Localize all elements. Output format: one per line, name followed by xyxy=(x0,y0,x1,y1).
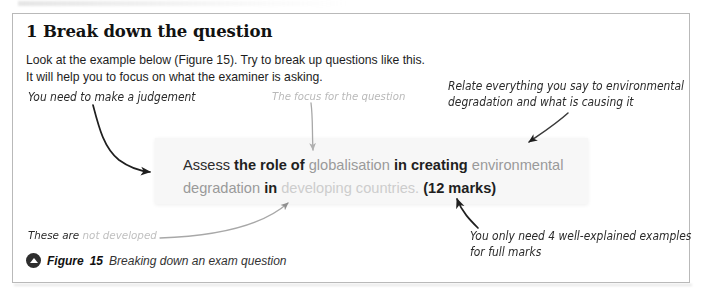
annotation-examples-line-1: You only need 4 well-explained examples xyxy=(470,228,691,244)
annotation-relate: Relate everything you say to environment… xyxy=(448,78,684,110)
annotation-these-are: These are xyxy=(28,229,79,242)
page-bleed-artifact xyxy=(18,1,348,6)
question-segment-assess: Assess xyxy=(183,157,230,173)
figure-number: 15 xyxy=(90,254,103,268)
annotation-examples: You only need 4 well-explained examples … xyxy=(470,228,691,260)
figure-page: 1 Break down the question Look at the ex… xyxy=(0,0,702,298)
question-segment-in-creating: in creating xyxy=(394,157,468,173)
annotation-not-developed: These are not developed xyxy=(28,228,157,244)
figure-caption-text: Breaking down an exam question xyxy=(109,254,286,268)
question-segment-globalisation: globalisation xyxy=(309,157,390,173)
annotation-relate-line-2: degradation and what is causing it xyxy=(448,94,684,110)
question-segment-marks: (12 marks) xyxy=(423,180,496,196)
annotation-judgement: You need to make a judgement xyxy=(28,89,196,105)
question-segment-in: in xyxy=(264,180,277,196)
annotation-examples-line-2: for full marks xyxy=(470,244,691,260)
card-shadow xyxy=(14,284,692,286)
page-title: 1 Break down the question xyxy=(26,22,272,41)
intro-line-2: It will help you to focus on what the ex… xyxy=(26,69,425,86)
figure-caption: Figure 15 Breaking down an exam question xyxy=(26,253,286,268)
question-segment-developing-countries: developing countries. xyxy=(281,180,419,196)
intro-paragraph: Look at the example below (Figure 15). T… xyxy=(26,52,425,85)
annotation-focus: The focus for the question xyxy=(272,89,405,105)
triangle-up-circle-icon xyxy=(26,253,41,268)
figure-label: Figure xyxy=(47,254,84,268)
question-segment-the-role-of: the role of xyxy=(234,157,305,173)
annotation-relate-line-1: Relate everything you say to environment… xyxy=(448,78,684,94)
intro-line-1: Look at the example below (Figure 15). T… xyxy=(26,52,425,69)
annotation-not-developed-faded: not developed xyxy=(83,229,157,242)
exam-question-text: Assess the role of globalisation in crea… xyxy=(183,154,603,200)
